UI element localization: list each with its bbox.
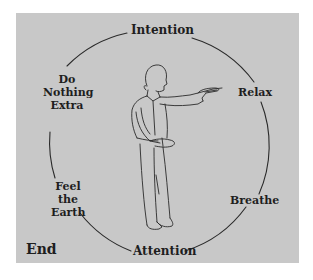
- label-feel: Feel: [51, 180, 85, 193]
- label-intention: Intention: [131, 24, 194, 37]
- label-end: End: [26, 243, 57, 256]
- arc-feel-doextra: [50, 132, 55, 178]
- cycle-diagram: [0, 0, 313, 280]
- label-do: Do: [43, 73, 91, 86]
- label-nothing: Nothing: [43, 86, 91, 99]
- arc-intention-relax: [192, 38, 254, 82]
- label-do-nothing-extra: Do Nothing Extra: [43, 73, 91, 112]
- arc-doextra-intention: [67, 33, 127, 66]
- figure-icon: [132, 65, 222, 229]
- label-attention: Attention: [133, 245, 196, 258]
- label-extra: Extra: [43, 99, 91, 112]
- label-earth: Earth: [51, 206, 85, 219]
- label-relax: Relax: [238, 86, 272, 99]
- label-breathe: Breathe: [230, 194, 279, 207]
- arc-attention-feel: [80, 213, 131, 251]
- label-the: the: [51, 193, 85, 206]
- arc-relax-breathe: [259, 102, 269, 194]
- label-feel-the-earth: Feel the Earth: [51, 180, 85, 219]
